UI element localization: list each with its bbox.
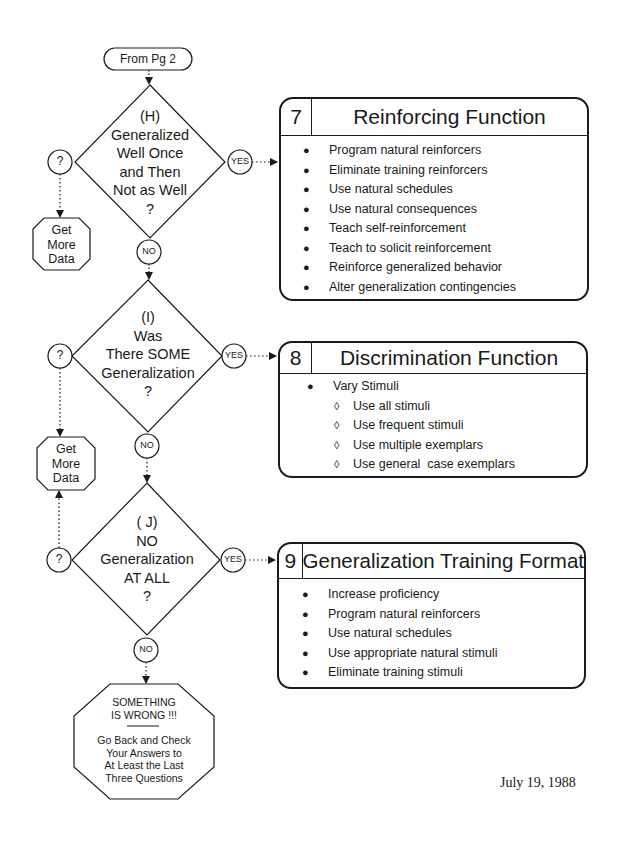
error-stop-heading-line: SOMETHING	[74, 696, 214, 709]
apple-bullet-icon: ●	[303, 239, 310, 259]
action-box-8: 8 Discrimination Function ●Vary Stimuli …	[278, 341, 588, 478]
list-item-text: Use frequent stimuli	[353, 416, 463, 436]
apple-bullet-icon: ●	[302, 624, 309, 644]
list-item: ◊Use all stimuli	[280, 397, 586, 417]
list-item: ●Teach to solicit reinforcement	[281, 239, 587, 259]
i-yes-label: YES	[222, 350, 246, 360]
diamond-bullet-icon: ◊	[334, 397, 339, 417]
decision-j-id: ( J)	[92, 513, 202, 532]
decision-h-id: (H)	[95, 107, 205, 126]
j-yes-label: YES	[221, 554, 245, 564]
i-unsure-label: ?	[48, 349, 72, 363]
list-item-text: Vary Stimuli	[333, 377, 399, 397]
action-box-9-number: 9	[279, 544, 303, 578]
list-item-text: Alter generalization contingencies	[329, 278, 516, 298]
decision-i-id: (I)	[93, 308, 203, 327]
list-item: ●Use appropriate natural stimuli	[279, 644, 584, 664]
list-item: ◊Use general case exemplars	[280, 455, 586, 475]
apple-bullet-icon: ●	[303, 180, 310, 200]
decision-h-line: and Then	[95, 163, 205, 182]
decision-h-question-mark: ?	[95, 200, 205, 219]
get-more-data-1: Get More Data	[33, 223, 90, 267]
list-item-text: Eliminate training stimuli	[328, 663, 463, 683]
apple-bullet-icon: ●	[302, 644, 309, 664]
list-item: ●Teach self-reinforcement	[281, 219, 587, 239]
decision-i-question-mark: ?	[93, 382, 203, 401]
list-item: ●Vary Stimuli	[280, 377, 586, 397]
document-date: July 19, 1988	[500, 775, 600, 791]
list-item: ●Program natural reinforcers	[279, 605, 584, 625]
list-item-text: Use all stimuli	[353, 397, 430, 417]
diamond-bullet-icon: ◊	[334, 455, 339, 475]
decision-j-line: NO	[92, 532, 202, 551]
get-more-data-line: Data	[33, 252, 90, 267]
apple-bullet-icon: ●	[307, 377, 314, 397]
diamond-bullet-icon: ◊	[334, 436, 339, 456]
decision-j-line: Generalization	[92, 550, 202, 569]
get-more-data-line: Get	[33, 223, 90, 238]
action-box-9-header: 9 Generalization Training Format	[279, 544, 584, 579]
decision-h: (H) Generalized Well Once and Then Not a…	[95, 107, 205, 218]
error-stop-body-line: At Least the Last	[74, 759, 214, 772]
error-stop-body-line: Your Answers to	[74, 747, 214, 760]
list-item: ●Use natural schedules	[279, 624, 584, 644]
h-unsure-label: ?	[48, 155, 72, 169]
list-item-text: Teach to solicit reinforcement	[329, 239, 491, 259]
get-more-data-line: More	[37, 457, 95, 472]
decision-h-line: Generalized	[95, 126, 205, 145]
action-box-9: 9 Generalization Training Format ●Increa…	[277, 542, 586, 689]
decision-i: (I) Was There SOME Generalization ?	[93, 308, 203, 401]
get-more-data-line: Get	[37, 442, 95, 457]
decision-j: ( J) NO Generalization AT ALL ?	[92, 513, 202, 606]
get-more-data-line: More	[33, 238, 90, 253]
error-stop-body-line: Three Questions	[74, 772, 214, 785]
action-box-9-list: ●Increase proficiency ●Program natural r…	[279, 585, 584, 683]
list-item-text: Use natural schedules	[329, 180, 453, 200]
decision-h-line: Not as Well	[95, 181, 205, 200]
apple-bullet-icon: ●	[303, 258, 310, 278]
action-box-7-title: Reinforcing Function	[312, 99, 587, 135]
action-box-8-title: Discrimination Function	[312, 343, 586, 373]
decision-j-question-mark: ?	[92, 587, 202, 606]
list-item: ●Eliminate training stimuli	[279, 663, 584, 683]
list-item: ●Use natural schedules	[281, 180, 587, 200]
apple-bullet-icon: ●	[302, 663, 309, 683]
list-item-text: Use general case exemplars	[353, 455, 515, 475]
h-no-label: NO	[137, 246, 161, 256]
apple-bullet-icon: ●	[303, 200, 310, 220]
diamond-bullet-icon: ◊	[334, 416, 339, 436]
decision-j-line: AT ALL	[92, 569, 202, 588]
error-stop-body-line: Go Back and Check	[74, 734, 214, 747]
apple-bullet-icon: ●	[303, 141, 310, 161]
decision-i-line: Was	[93, 327, 203, 346]
get-more-data-2: Get More Data	[37, 442, 95, 486]
j-unsure-label: ?	[47, 553, 71, 567]
action-box-8-number: 8	[280, 343, 312, 373]
action-box-7-number: 7	[281, 99, 312, 135]
start-label: From Pg 2	[120, 52, 176, 66]
list-item-text: Use multiple exemplars	[353, 436, 483, 456]
start-terminal: From Pg 2	[104, 52, 192, 66]
action-box-7-list: ●Program natural reinforcers ●Eliminate …	[281, 141, 587, 297]
list-item-text: Reinforce generalized behavior	[329, 258, 502, 278]
list-item: ●Increase proficiency	[279, 585, 584, 605]
list-item: ●Program natural reinforcers	[281, 141, 587, 161]
action-box-9-title: Generalization Training Format	[303, 544, 584, 578]
list-item-text: Program natural reinforcers	[328, 605, 480, 625]
apple-bullet-icon: ●	[302, 605, 309, 625]
list-item-text: Increase proficiency	[328, 585, 439, 605]
j-no-label: NO	[134, 644, 158, 654]
list-item: ●Use natural consequences	[281, 200, 587, 220]
error-stop-body: Go Back and Check Your Answers to At Lea…	[74, 734, 214, 784]
list-item-text: Teach self-reinforcement	[329, 219, 466, 239]
list-item: ◊Use multiple exemplars	[280, 436, 586, 456]
apple-bullet-icon: ●	[303, 161, 310, 181]
action-box-8-list: ●Vary Stimuli ◊Use all stimuli ◊Use freq…	[280, 377, 586, 475]
apple-bullet-icon: ●	[303, 278, 310, 298]
list-item-text: Use natural schedules	[328, 624, 452, 644]
list-item-text: Use appropriate natural stimuli	[328, 644, 498, 664]
error-stop-heading: SOMETHING IS WRONG !!!	[74, 696, 214, 721]
decision-i-line: There SOME	[93, 345, 203, 364]
action-box-8-header: 8 Discrimination Function	[280, 343, 586, 374]
get-more-data-line: Data	[37, 471, 95, 486]
